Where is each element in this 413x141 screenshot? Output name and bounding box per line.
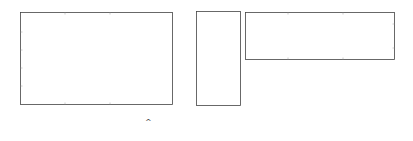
scores-chart	[196, 11, 242, 107]
spectra-chart	[20, 12, 174, 106]
loadings-chart	[245, 12, 396, 61]
scores-panel	[196, 11, 242, 107]
spectra-panel	[20, 12, 174, 106]
loadings-panel	[245, 12, 396, 61]
